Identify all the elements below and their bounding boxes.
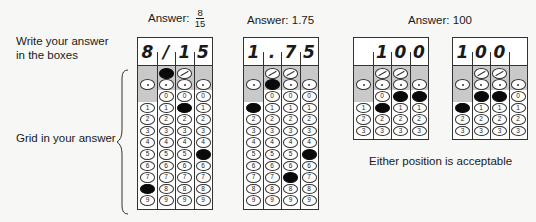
digit-5-bubble[interactable]: 5 bbox=[265, 149, 280, 160]
decimal-bubble[interactable] bbox=[283, 79, 298, 90]
decimal-bubble[interactable] bbox=[265, 79, 280, 90]
digit-1-bubble[interactable]: 1 bbox=[159, 103, 174, 114]
digit-1-bubble[interactable]: 1 bbox=[196, 103, 211, 114]
decimal-bubble[interactable] bbox=[375, 79, 390, 90]
decimal-bubble[interactable] bbox=[474, 79, 489, 90]
digit-2-bubble[interactable]: 2 bbox=[177, 114, 192, 125]
digit-3-bubble[interactable]: 3 bbox=[140, 126, 155, 137]
decimal-bubble[interactable] bbox=[511, 79, 526, 90]
slash-bubble[interactable] bbox=[159, 68, 174, 79]
decimal-bubble[interactable] bbox=[302, 79, 317, 90]
digit-7-bubble[interactable]: 7 bbox=[140, 172, 155, 183]
digit-9-bubble[interactable]: 9 bbox=[283, 195, 298, 206]
digit-4-bubble[interactable]: 4 bbox=[283, 137, 298, 148]
decimal-bubble[interactable] bbox=[356, 79, 371, 90]
digit-1-bubble[interactable]: 1 bbox=[474, 103, 489, 114]
digit-5-bubble[interactable]: 5 bbox=[177, 149, 192, 160]
digit-0-bubble[interactable]: 0 bbox=[511, 91, 526, 102]
digit-1-bubble[interactable]: 1 bbox=[140, 103, 155, 114]
digit-3-bubble[interactable]: 3 bbox=[265, 126, 280, 137]
digit-7-bubble[interactable]: 7 bbox=[196, 172, 211, 183]
decimal-bubble[interactable] bbox=[177, 79, 192, 90]
digit-6-bubble[interactable]: 6 bbox=[177, 161, 192, 172]
digit-2-bubble[interactable]: 2 bbox=[474, 114, 489, 125]
digit-2-bubble[interactable]: 2 bbox=[356, 114, 371, 125]
digit-2-bubble[interactable]: 2 bbox=[283, 114, 298, 125]
digit-3-bubble[interactable]: 3 bbox=[492, 126, 507, 137]
digit-9-bubble[interactable]: 9 bbox=[140, 195, 155, 206]
digit-3-bubble[interactable]: 3 bbox=[375, 126, 390, 137]
digit-9-bubble[interactable]: 9 bbox=[246, 195, 261, 206]
digit-6-bubble[interactable]: 6 bbox=[246, 161, 261, 172]
digit-4-bubble[interactable]: 4 bbox=[302, 137, 317, 148]
digit-1-bubble[interactable]: 1 bbox=[375, 103, 390, 114]
decimal-bubble[interactable] bbox=[246, 79, 261, 90]
digit-8-bubble[interactable]: 8 bbox=[302, 184, 317, 195]
digit-8-bubble[interactable]: 8 bbox=[283, 184, 298, 195]
digit-1-bubble[interactable]: 1 bbox=[265, 103, 280, 114]
digit-3-bubble[interactable]: 3 bbox=[511, 126, 526, 137]
digit-0-bubble[interactable]: 0 bbox=[412, 91, 427, 102]
slash-bubble[interactable] bbox=[492, 68, 507, 79]
slash-bubble[interactable] bbox=[177, 68, 192, 79]
digit-4-bubble[interactable]: 4 bbox=[265, 137, 280, 148]
digit-1-bubble[interactable]: 1 bbox=[412, 103, 427, 114]
digit-2-bubble[interactable]: 2 bbox=[196, 114, 211, 125]
digit-2-bubble[interactable]: 2 bbox=[159, 114, 174, 125]
digit-3-bubble[interactable]: 3 bbox=[283, 126, 298, 137]
digit-2-bubble[interactable]: 2 bbox=[246, 114, 261, 125]
digit-1-bubble[interactable]: 1 bbox=[246, 103, 261, 114]
digit-6-bubble[interactable]: 6 bbox=[196, 161, 211, 172]
decimal-bubble[interactable] bbox=[393, 79, 408, 90]
digit-2-bubble[interactable]: 2 bbox=[412, 114, 427, 125]
digit-1-bubble[interactable]: 1 bbox=[492, 103, 507, 114]
decimal-bubble[interactable] bbox=[140, 79, 155, 90]
digit-9-bubble[interactable]: 9 bbox=[196, 195, 211, 206]
digit-6-bubble[interactable]: 6 bbox=[302, 161, 317, 172]
digit-3-bubble[interactable]: 3 bbox=[356, 126, 371, 137]
digit-7-bubble[interactable]: 7 bbox=[246, 172, 261, 183]
digit-2-bubble[interactable]: 2 bbox=[140, 114, 155, 125]
digit-9-bubble[interactable]: 9 bbox=[265, 195, 280, 206]
digit-3-bubble[interactable]: 3 bbox=[196, 126, 211, 137]
digit-3-bubble[interactable]: 3 bbox=[246, 126, 261, 137]
digit-0-bubble[interactable]: 0 bbox=[177, 91, 192, 102]
digit-7-bubble[interactable]: 7 bbox=[283, 172, 298, 183]
digit-7-bubble[interactable]: 7 bbox=[177, 172, 192, 183]
digit-3-bubble[interactable]: 3 bbox=[159, 126, 174, 137]
digit-3-bubble[interactable]: 3 bbox=[177, 126, 192, 137]
digit-8-bubble[interactable]: 8 bbox=[159, 184, 174, 195]
digit-0-bubble[interactable]: 0 bbox=[393, 91, 408, 102]
digit-3-bubble[interactable]: 3 bbox=[412, 126, 427, 137]
digit-0-bubble[interactable]: 0 bbox=[265, 91, 280, 102]
digit-1-bubble[interactable]: 1 bbox=[283, 103, 298, 114]
digit-0-bubble[interactable]: 0 bbox=[196, 91, 211, 102]
digit-5-bubble[interactable]: 5 bbox=[302, 149, 317, 160]
digit-4-bubble[interactable]: 4 bbox=[177, 137, 192, 148]
digit-9-bubble[interactable]: 9 bbox=[302, 195, 317, 206]
digit-2-bubble[interactable]: 2 bbox=[265, 114, 280, 125]
digit-2-bubble[interactable]: 2 bbox=[375, 114, 390, 125]
slash-bubble[interactable] bbox=[474, 68, 489, 79]
slash-bubble[interactable] bbox=[375, 68, 390, 79]
decimal-bubble[interactable] bbox=[159, 79, 174, 90]
slash-bubble[interactable] bbox=[393, 68, 408, 79]
digit-5-bubble[interactable]: 5 bbox=[196, 149, 211, 160]
digit-0-bubble[interactable]: 0 bbox=[492, 91, 507, 102]
digit-6-bubble[interactable]: 6 bbox=[265, 161, 280, 172]
digit-0-bubble[interactable]: 0 bbox=[159, 91, 174, 102]
digit-1-bubble[interactable]: 1 bbox=[177, 103, 192, 114]
digit-8-bubble[interactable]: 8 bbox=[196, 184, 211, 195]
digit-7-bubble[interactable]: 7 bbox=[265, 172, 280, 183]
digit-8-bubble[interactable]: 8 bbox=[265, 184, 280, 195]
digit-3-bubble[interactable]: 3 bbox=[455, 126, 470, 137]
digit-3-bubble[interactable]: 3 bbox=[393, 126, 408, 137]
digit-1-bubble[interactable]: 1 bbox=[393, 103, 408, 114]
digit-2-bubble[interactable]: 2 bbox=[393, 114, 408, 125]
digit-1-bubble[interactable]: 1 bbox=[455, 103, 470, 114]
digit-1-bubble[interactable]: 1 bbox=[511, 103, 526, 114]
decimal-bubble[interactable] bbox=[412, 79, 427, 90]
digit-0-bubble[interactable]: 0 bbox=[302, 91, 317, 102]
digit-8-bubble[interactable]: 8 bbox=[140, 184, 155, 195]
decimal-bubble[interactable] bbox=[455, 79, 470, 90]
